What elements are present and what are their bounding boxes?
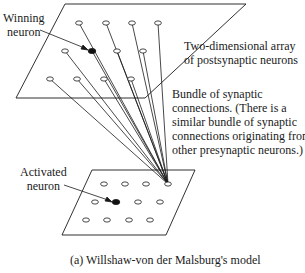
presynaptic-neuron-icon xyxy=(157,200,164,204)
presynaptic-neuron-icon xyxy=(122,182,129,186)
bundle-line-1: Bundle of synaptic xyxy=(172,87,305,101)
activated-arrowhead-icon xyxy=(105,197,112,202)
figure-caption: (a) Willshaw-von der Malsburg's model xyxy=(70,253,261,267)
postsynaptic-neuron-icon xyxy=(128,77,135,81)
postsynaptic-neuron-icon xyxy=(62,49,69,53)
bundle-label: Bundle of synaptic connections. (There i… xyxy=(172,87,305,157)
presynaptic-neuron-icon xyxy=(104,218,111,222)
activated-neuron-label: Activated neuron xyxy=(20,165,67,193)
winning-label-line-1: Winning xyxy=(3,11,45,25)
winning-arrowhead-icon xyxy=(81,45,88,50)
presynaptic-neuron-icon xyxy=(147,218,154,222)
synapse-line xyxy=(65,51,168,184)
postsynaptic-neuron-icon xyxy=(140,49,147,53)
synaptic-connections xyxy=(50,23,168,184)
synapse-line xyxy=(92,51,168,184)
array-label-line-2: of postsynaptic neurons xyxy=(184,53,298,67)
bundle-line-4: connections originating from xyxy=(172,129,305,143)
postsynaptic-neuron-icon xyxy=(47,77,54,81)
bundle-line-5: other presynaptic neurons.) xyxy=(172,143,305,157)
postsynaptic-neuron-icon xyxy=(129,21,136,25)
presynaptic-plane xyxy=(62,170,195,235)
synapse-line xyxy=(77,79,168,184)
winning-label-line-2: neuron xyxy=(3,25,45,39)
activated-neuron-arrow xyxy=(64,185,111,201)
synapse-line xyxy=(50,79,168,184)
winning-neuron-arrow xyxy=(40,30,87,49)
bundle-line-3: similar bundle of synaptic xyxy=(172,115,305,129)
bundle-line-2: connections. (There is a xyxy=(172,101,305,115)
presynaptic-neuron-icon xyxy=(135,200,142,204)
winning-neuron-label: Winning neuron xyxy=(3,11,45,39)
presynaptic-neuron-active-icon xyxy=(112,199,120,204)
presynaptic-neuron-icon xyxy=(92,200,99,204)
postsynaptic-neuron-icon xyxy=(76,21,83,25)
postsynaptic-neuron-icon xyxy=(114,49,121,53)
presynaptic-neuron-icon xyxy=(165,182,172,186)
postsynaptic-neuron-icon xyxy=(101,77,108,81)
array-label-line-1: Two-dimensional array xyxy=(184,39,298,53)
postsynaptic-neuron-icon xyxy=(74,77,81,81)
postsynaptic-neuron-active-icon xyxy=(88,48,96,53)
presynaptic-neuron-icon xyxy=(126,218,133,222)
activated-label-line-2: neuron xyxy=(20,179,67,193)
activated-label-line-1: Activated xyxy=(20,165,67,179)
postsynaptic-neuron-icon xyxy=(103,21,110,25)
presynaptic-neurons xyxy=(83,182,172,222)
presynaptic-neuron-icon xyxy=(101,182,108,186)
presynaptic-neuron-icon xyxy=(83,218,90,222)
presynaptic-neuron-icon xyxy=(143,182,150,186)
postsynaptic-neuron-icon xyxy=(155,21,162,25)
postsynaptic-array-label: Two-dimensional array of postsynaptic ne… xyxy=(184,39,298,67)
